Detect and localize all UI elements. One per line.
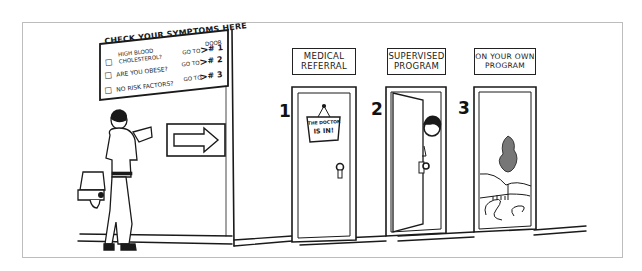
door-number: # 2 [207,56,223,66]
wall-corner [232,30,234,246]
door-3-number: 3 [458,98,470,118]
door-3-sign-line2: PROGRAM [485,62,525,71]
arrow-sign [167,124,225,156]
door-2-sign-line2: PROGRAM [394,62,439,72]
hallway-scene [0,0,642,271]
door-2-number: 2 [371,99,383,119]
door-1-number: 1 [279,101,291,121]
checkbox-icon[interactable]: □ [104,86,112,95]
door-number: # 1 [208,44,224,54]
man-figure [104,110,152,250]
door-3-sign: ON YOUR OWN PROGRAM [474,48,536,75]
door-1-sign-line2: REFERRAL [301,62,347,72]
door-2 [386,87,446,236]
door-2-sign: SUPERVISED PROGRAM [387,48,446,75]
floor-line-left-lower [78,241,232,244]
checkbox-icon[interactable]: □ [104,71,112,80]
door-1-sign: MEDICAL REFERRAL [292,48,356,75]
door-3 [474,87,536,232]
water-fountain [78,172,105,208]
checkbox-icon[interactable]: □ [105,58,113,67]
floor-line-left [80,234,232,236]
doctor-sign-line1: THE DOCTOR [308,120,339,126]
doctor-is-in-sign: THE DOCTOR IS IN! [308,120,340,135]
door-number: # 3 [207,71,223,81]
door-1 [292,87,356,242]
